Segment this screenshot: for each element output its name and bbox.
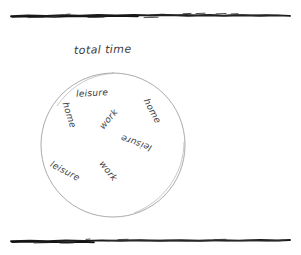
sketch-canvas: total time leisure home work home leisur… — [0, 0, 301, 255]
top-divider-rule — [0, 8, 301, 22]
total-time-circle — [38, 70, 188, 220]
page-title: total time — [74, 42, 132, 57]
segment-label-leisure-top: leisure — [76, 87, 109, 99]
bottom-divider-rule — [0, 232, 301, 246]
